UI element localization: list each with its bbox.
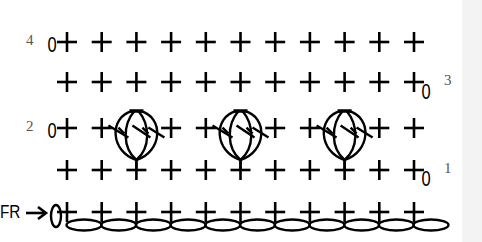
single-crochet-icon — [404, 32, 424, 52]
single-crochet-icon — [231, 32, 251, 52]
row-label-4: 4 — [26, 32, 34, 49]
chain-stitch-icon — [101, 220, 136, 231]
foundation-row-label: FR — [0, 202, 20, 223]
single-crochet-icon — [126, 72, 146, 92]
single-crochet-icon — [335, 72, 355, 92]
single-crochet-icon — [335, 160, 355, 180]
single-crochet-icon — [265, 72, 285, 92]
single-crochet-icon — [265, 202, 285, 222]
turning-chain-row1: 0 — [422, 166, 431, 192]
single-crochet-icon — [265, 160, 285, 180]
single-crochet-icon — [404, 202, 424, 222]
chain-stitch-icon — [240, 220, 275, 231]
row-label-3: 3 — [444, 72, 452, 89]
single-crochet-icon — [369, 202, 389, 222]
chain-stitch-icon — [344, 220, 379, 231]
turning-chain-row3: 0 — [422, 79, 431, 105]
single-crochet-icon — [57, 32, 77, 52]
chain-stitch-icon — [171, 220, 206, 231]
single-crochet-icon — [57, 118, 77, 138]
single-crochet-icon — [92, 32, 112, 52]
chain-stitch-icon — [379, 220, 414, 231]
single-crochet-icon — [231, 72, 251, 92]
single-crochet-icon — [369, 160, 389, 180]
turning-chain-row2: 0 — [48, 118, 57, 144]
single-crochet-icon — [369, 118, 389, 138]
single-crochet-icon — [335, 202, 355, 222]
single-crochet-icon — [265, 32, 285, 52]
turning-chain-row4: 0 — [48, 32, 57, 58]
single-crochet-icon — [300, 118, 320, 138]
single-crochet-icon — [369, 32, 389, 52]
single-crochet-icon — [92, 72, 112, 92]
chain-stitch-icon — [414, 220, 449, 231]
single-crochet-icon — [161, 72, 181, 92]
single-crochet-icon — [369, 72, 389, 92]
chain-stitch-icon — [136, 220, 171, 231]
single-crochet-icon — [126, 160, 146, 180]
single-crochet-icon — [196, 72, 216, 92]
single-crochet-icon — [126, 202, 146, 222]
single-crochet-icon — [57, 72, 77, 92]
single-crochet-icon — [300, 72, 320, 92]
single-crochet-icon — [57, 160, 77, 180]
chain-stitch-icon — [205, 220, 240, 231]
single-crochet-icon — [231, 160, 251, 180]
chain-stitch-icon — [309, 220, 344, 231]
single-crochet-icon — [300, 202, 320, 222]
single-crochet-icon — [196, 32, 216, 52]
single-crochet-icon — [196, 118, 216, 138]
single-crochet-icon — [265, 118, 285, 138]
single-crochet-icon — [92, 160, 112, 180]
single-crochet-icon — [92, 118, 112, 138]
row-label-1: 1 — [444, 160, 452, 177]
single-crochet-icon — [335, 32, 355, 52]
crochet-chart — [0, 0, 482, 242]
single-crochet-icon — [300, 160, 320, 180]
single-crochet-icon — [196, 160, 216, 180]
single-crochet-icon — [92, 202, 112, 222]
single-crochet-icon — [231, 202, 251, 222]
single-crochet-icon — [196, 202, 216, 222]
single-crochet-icon — [404, 118, 424, 138]
single-crochet-icon — [126, 32, 146, 52]
single-crochet-icon — [161, 160, 181, 180]
chain-stitch-icon — [67, 220, 102, 231]
row-label-2: 2 — [26, 118, 34, 135]
single-crochet-icon — [161, 32, 181, 52]
single-crochet-icon — [161, 118, 181, 138]
single-crochet-icon — [300, 32, 320, 52]
starting-chain-icon — [51, 205, 61, 227]
chain-stitch-icon — [275, 220, 310, 231]
single-crochet-icon — [161, 202, 181, 222]
